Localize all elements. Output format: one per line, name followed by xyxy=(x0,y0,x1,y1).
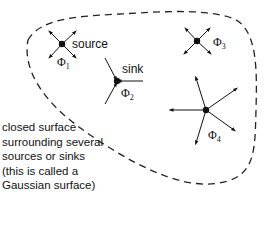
caption-line: sources or sinks xyxy=(2,149,103,164)
phi3-label: Φ3 xyxy=(213,35,226,51)
charge-dot xyxy=(59,41,65,47)
sink-phi2: sink Φ2 xyxy=(105,58,144,104)
caption-line: surrounding several xyxy=(2,135,103,150)
source-label: source xyxy=(72,37,108,51)
charge-dot xyxy=(114,78,120,84)
phi4-label: Φ4 xyxy=(208,128,221,144)
surface-caption: closed surfacesurrounding severalsources… xyxy=(2,120,103,193)
sink-label: sink xyxy=(122,62,144,76)
phi2-label: Φ2 xyxy=(121,86,134,102)
source-phi1: source Φ1 xyxy=(50,32,108,71)
phi1-label: Φ1 xyxy=(57,55,70,71)
caption-line: closed surface xyxy=(2,120,103,135)
caption-line: (this is called a xyxy=(2,164,103,179)
source-phi3: Φ3 xyxy=(185,29,226,53)
charge-dot xyxy=(203,107,209,113)
source-phi4: Φ4 xyxy=(171,78,236,144)
charge-dot xyxy=(194,38,200,44)
caption-line: Gaussian surface) xyxy=(2,178,103,193)
